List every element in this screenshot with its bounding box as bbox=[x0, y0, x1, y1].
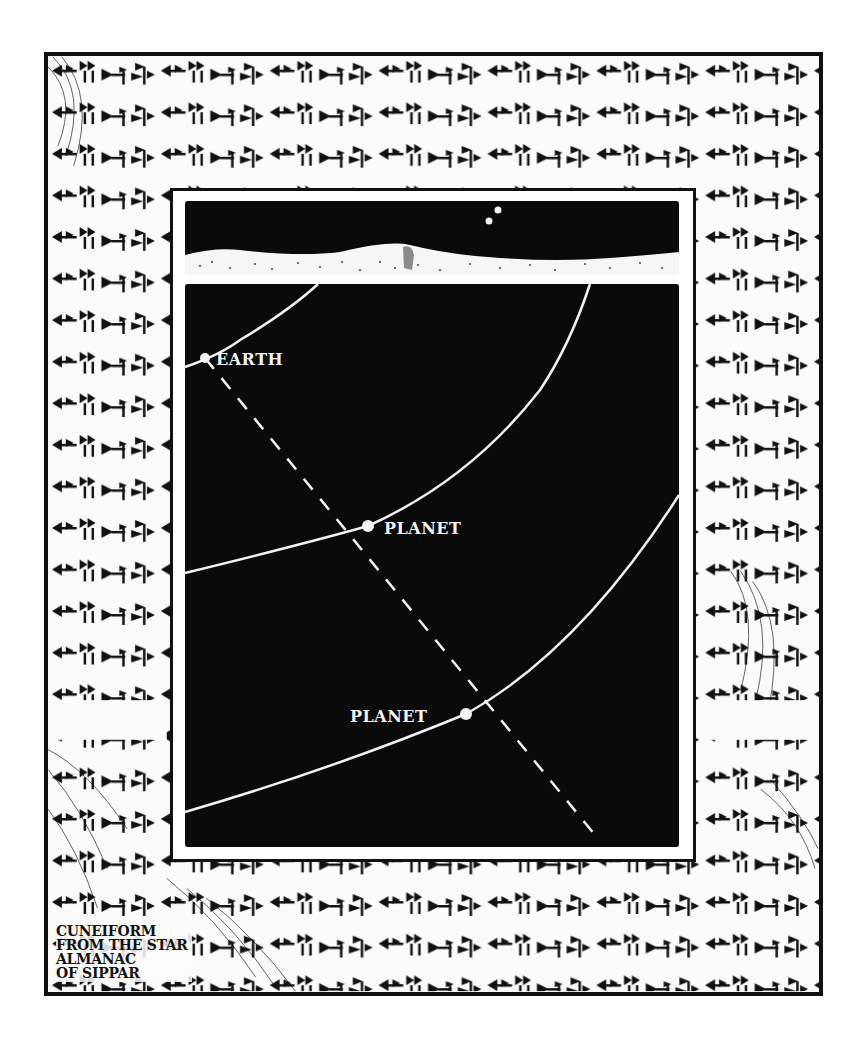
inner-planet-point bbox=[362, 520, 374, 532]
star-icon bbox=[486, 218, 493, 225]
inner-planet-label: PLANET bbox=[384, 519, 461, 538]
sky-panel bbox=[185, 201, 679, 275]
earth-label: EARTH bbox=[216, 350, 283, 369]
main-panel: EARTH PLANET PLANET bbox=[185, 284, 679, 847]
outer-planet-point bbox=[460, 708, 472, 720]
orbit-diagram: EARTH PLANET PLANET bbox=[0, 0, 863, 1051]
star-icon bbox=[495, 207, 502, 214]
earth-point bbox=[200, 353, 210, 363]
outer-planet-label: PLANET bbox=[350, 707, 427, 726]
